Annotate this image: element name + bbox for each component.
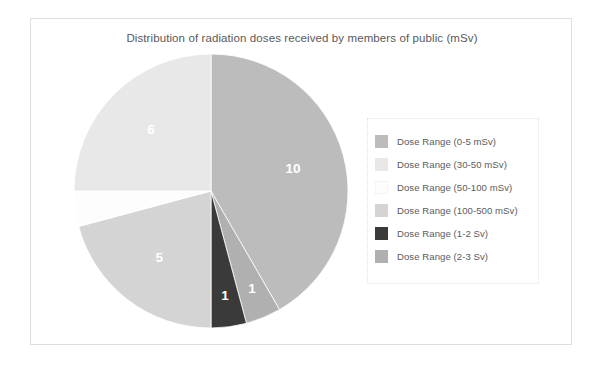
pie-chart: 101156 [71,51,351,331]
pie-slice-label: 1 [221,288,229,303]
pie-slice-label: 5 [156,250,164,265]
page-title: Distribution of radiation doses received… [31,32,573,44]
legend-color-swatch [375,227,388,240]
legend-color-swatch [375,135,388,148]
legend-item[interactable]: Dose Range (0-5 mSv) [375,130,538,153]
pie-slice-group [74,54,348,328]
legend-item[interactable]: Dose Range (100-500 mSv) [375,199,538,222]
legend-item-label: Dose Range (1-2 Sv) [397,228,488,239]
legend-color-swatch [375,250,388,263]
pie-slice[interactable] [74,54,211,191]
pie-slice-label: 1 [248,281,256,296]
pie-chart-svg: 101156 [71,51,351,331]
chart-frame: Distribution of radiation doses received… [30,18,572,345]
legend-item-label: Dose Range (30-50 mSv) [397,159,507,170]
legend-color-swatch [375,158,388,171]
legend-item-label: Dose Range (100-500 mSv) [397,205,518,216]
legend-item[interactable]: Dose Range (50-100 mSv) [375,176,538,199]
page-canvas: Distribution of radiation doses received… [0,0,604,369]
legend-item[interactable]: Dose Range (1-2 Sv) [375,222,538,245]
legend-item-label: Dose Range (50-100 mSv) [397,182,512,193]
pie-slice-label: 6 [147,122,155,137]
pie-slice-label: 10 [285,161,300,176]
legend-item[interactable]: Dose Range (2-3 Sv) [375,245,538,268]
legend-color-swatch [375,181,388,194]
legend-item-label: Dose Range (2-3 Sv) [397,251,488,262]
chart-legend: Dose Range (0-5 mSv)Dose Range (30-50 mS… [367,118,539,284]
legend-item[interactable]: Dose Range (30-50 mSv) [375,153,538,176]
legend-item-label: Dose Range (0-5 mSv) [397,136,496,147]
legend-color-swatch [375,204,388,217]
